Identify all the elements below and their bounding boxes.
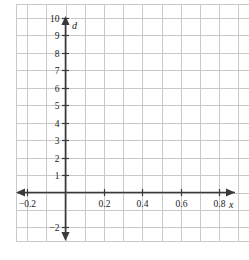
graph-figure: 10987654321−2 −0.20.20.40.60.81.0 d x <box>0 0 249 260</box>
y-tick-label: 3 <box>55 136 60 146</box>
x-axis-left-arrowhead <box>16 188 25 196</box>
y-tick-label: 7 <box>55 66 60 76</box>
coordinate-plane: 10987654321−2 −0.20.20.40.60.81.0 d x <box>0 0 249 260</box>
y-tick-label: 6 <box>55 84 60 94</box>
x-axis-label: x <box>228 199 234 210</box>
y-tick-label: 8 <box>55 49 60 59</box>
x-axis-tick-labels: −0.20.20.40.60.81.0 <box>19 199 249 209</box>
y-tick-label: 9 <box>55 31 60 41</box>
x-tick-label: 0.8 <box>214 199 226 209</box>
x-tick-label: 0.2 <box>99 199 111 209</box>
y-axis-label: d <box>72 20 78 31</box>
y-tick-label: 4 <box>55 119 60 129</box>
x-axis-right-arrowhead <box>226 188 235 196</box>
y-axis-top-arrowhead <box>61 16 69 25</box>
x-tick-label: 0.6 <box>176 199 188 209</box>
y-tick-label: 1 <box>55 171 60 181</box>
y-tick-label: 2 <box>55 154 60 164</box>
x-tick-label: 0.4 <box>137 199 149 209</box>
y-tick-label: 5 <box>55 101 60 111</box>
y-tick-label: −2 <box>49 223 59 233</box>
x-tick-label: −0.2 <box>19 199 36 209</box>
y-tick-label: 10 <box>50 14 60 24</box>
y-axis-bottom-arrowhead <box>61 232 69 241</box>
